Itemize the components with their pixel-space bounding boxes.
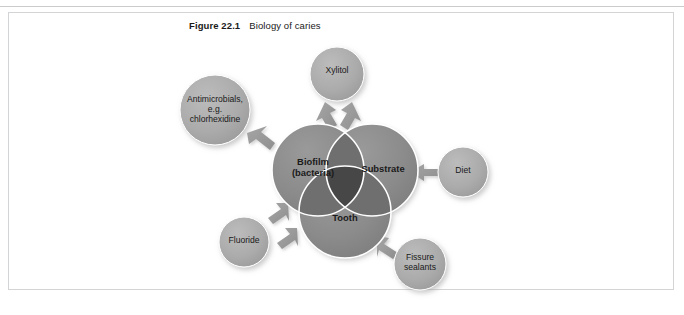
satellite-xylitol xyxy=(310,47,364,101)
satellite-fissure xyxy=(394,238,446,290)
satellite-diet xyxy=(438,147,488,197)
caries-biology-diagram: Xylitol Antimicrobials, e.g. chlorhexidi… xyxy=(0,0,684,315)
figure-page: Figure 22.1Biology of caries xyxy=(0,0,684,315)
arrow-fluoride-to-biofilm xyxy=(268,203,289,224)
satellite-antimicrobials xyxy=(180,75,250,145)
diagram-canvas xyxy=(0,0,684,315)
arrow-fluoride-to-tooth xyxy=(277,228,298,249)
arrow-antimicrobials-to-biofilm xyxy=(247,126,275,150)
satellite-fluoride xyxy=(219,217,269,267)
